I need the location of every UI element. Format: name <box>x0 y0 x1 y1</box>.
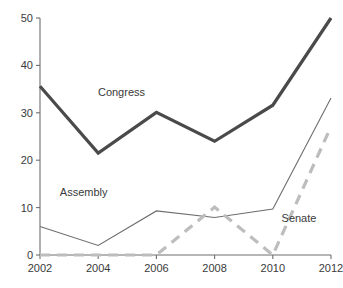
x-tick-label: 2002 <box>28 262 52 274</box>
series-label-congress: Congress <box>98 86 146 98</box>
x-tick-label: 2012 <box>319 262 343 274</box>
x-axis: 200220042006200820102012 <box>28 255 343 274</box>
y-tick-label: 30 <box>21 107 33 119</box>
chart-canvas: 01020304050 200220042006200820102012 Con… <box>0 0 343 288</box>
y-tick-label: 50 <box>21 12 33 24</box>
series-annotations: CongressAssemblySenate <box>60 86 317 224</box>
x-tick-label: 2008 <box>202 262 226 274</box>
x-tick-label: 2010 <box>261 262 285 274</box>
y-tick-label: 40 <box>21 59 33 71</box>
y-tick-label: 0 <box>27 249 33 261</box>
line-chart: 01020304050 200220042006200820102012 Con… <box>0 0 343 288</box>
y-tick-label: 10 <box>21 202 33 214</box>
series-label-senate: Senate <box>282 212 317 224</box>
series-line-congress <box>40 18 331 153</box>
x-tick-label: 2006 <box>144 262 168 274</box>
y-axis: 01020304050 <box>21 12 40 261</box>
y-tick-label: 20 <box>21 154 33 166</box>
x-tick-label: 2004 <box>86 262 110 274</box>
series-label-assembly: Assembly <box>60 186 108 198</box>
